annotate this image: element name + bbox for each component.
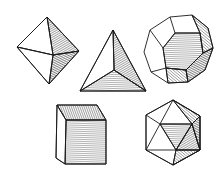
octahedron <box>17 17 79 84</box>
solids-drawing <box>0 0 219 177</box>
platonic-solids-illustration: The five Platonic solids <box>0 0 219 177</box>
tetrahedron <box>80 30 146 91</box>
icosahedron <box>146 100 200 165</box>
dodecahedron <box>144 15 213 83</box>
cube <box>56 105 106 164</box>
